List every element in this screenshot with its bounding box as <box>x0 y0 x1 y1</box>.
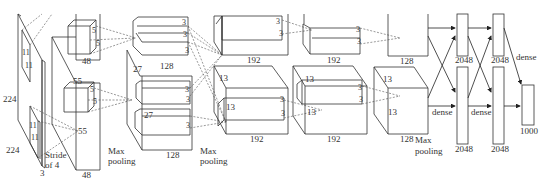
conv2-dim-label-2: 27 <box>144 110 154 120</box>
kernel3-label-d: 3 <box>185 85 189 94</box>
dense-label-1: dense <box>432 107 453 117</box>
kernel3-label-f: 3 <box>186 121 190 130</box>
projection-lines-5 <box>360 28 400 104</box>
maxpool3-label-2: pooling <box>415 146 443 156</box>
kernel2-label-d: 5 <box>93 97 97 106</box>
kernel4-label-c: 3 <box>280 95 284 104</box>
kernel2-label-b: 5 <box>96 39 100 48</box>
maxpool2-label: Max <box>200 146 217 156</box>
fc6-top-label: 2048 <box>455 55 474 65</box>
conv2-depth-top-label: 128 <box>160 61 174 71</box>
kernel5-label-b: 3 <box>357 37 361 46</box>
output-label: 1000 <box>520 126 539 136</box>
conv4-depth-top-label: 192 <box>327 55 341 65</box>
kernel5-label-d: 3 <box>359 95 363 104</box>
conv3-depth-bottom-label: 192 <box>250 134 264 144</box>
conv1-depth-bottom-label: 48 <box>82 170 92 180</box>
maxpool1-label: Max <box>108 146 125 156</box>
input-volume <box>18 14 45 168</box>
kernel1-label-a: 11 <box>22 48 30 57</box>
conv3-dim-label-2: 13 <box>226 102 236 112</box>
labels: 224 224 3 11 11 11 11 Stride of 4 55 55 … <box>3 17 539 180</box>
stride-label: Stride <box>45 150 67 160</box>
kernel3-label-c: 3 <box>185 46 189 55</box>
conv4-dim-label-2: 13 <box>307 107 317 117</box>
conv1-dim-label: 55 <box>73 76 83 86</box>
conv2-dim-label: 27 <box>133 64 143 74</box>
maxpool2-label-2: pooling <box>200 156 228 166</box>
conv4-depth-bottom-label: 192 <box>327 134 341 144</box>
conv5-dim-label-2: 13 <box>388 107 398 117</box>
kernel4-label-a: 3 <box>276 17 280 26</box>
alexnet-architecture-diagram: 224 224 3 11 11 11 11 Stride of 4 55 55 … <box>0 0 547 188</box>
dense-label-2: dense <box>471 107 492 117</box>
dense-arrows <box>428 28 521 106</box>
input-height-label: 224 <box>3 94 17 104</box>
kernel1-label-c: 11 <box>29 121 37 130</box>
kernel3-label-a: 3 <box>182 18 186 27</box>
kernel1-label-b: 11 <box>25 61 33 70</box>
kernel2-label-a: 5 <box>92 26 96 35</box>
conv3-dim-label: 13 <box>219 73 229 83</box>
kernel3-label-e: 3 <box>186 95 190 104</box>
kernel4-label-d: 3 <box>281 109 285 118</box>
fc7-top-label: 2048 <box>491 55 510 65</box>
stride-label-2: of 4 <box>45 160 60 170</box>
conv4-dim-label: 13 <box>305 74 315 84</box>
kernel4-label-b: 3 <box>279 29 283 38</box>
fc6-bottom-label: 2048 <box>455 144 474 154</box>
kernel3-label-b: 3 <box>183 30 187 39</box>
conv5-depth-bottom-label: 128 <box>400 134 414 144</box>
dense-label-3: dense <box>516 52 537 62</box>
fc-layers <box>457 14 534 144</box>
conv2-depth-bottom-label: 128 <box>166 150 180 160</box>
kernel5-label-a: 3 <box>356 25 360 34</box>
kernel5-label-c: 3 <box>358 83 362 92</box>
maxpool1-label-2: pooling <box>108 156 136 166</box>
conv5-dim-label: 13 <box>383 74 393 84</box>
fc7-bottom-label: 2048 <box>491 144 510 154</box>
conv1-depth-top-label: 48 <box>82 56 92 66</box>
conv5-depth-top-label: 128 <box>400 56 414 66</box>
kernel1-label-d: 11 <box>31 133 39 142</box>
conv3-depth-top-label: 192 <box>247 55 261 65</box>
conv1-dim-label-2: 55 <box>78 126 88 136</box>
maxpool3-label: Max <box>415 135 432 145</box>
input-width-label: 224 <box>6 145 20 155</box>
kernel2-label-c: 5 <box>90 85 94 94</box>
